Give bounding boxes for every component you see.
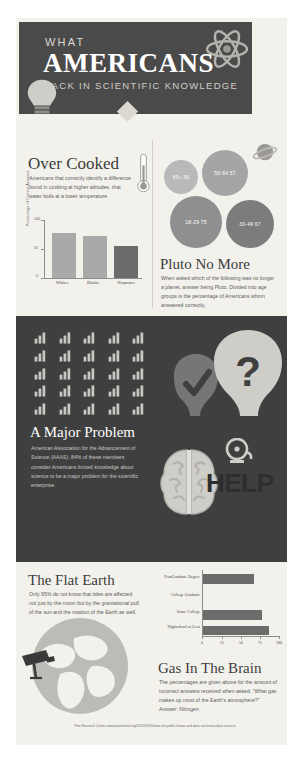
bubble-18-29: 18-29 75	[170, 196, 222, 248]
bar-chart-pictogram-icon	[79, 401, 101, 416]
thermometer-icon	[136, 152, 151, 194]
y-tick-label-100: 100	[34, 217, 40, 221]
bar-chart-pictogram-icon	[128, 330, 150, 345]
x-tick-label-25: 25	[220, 640, 224, 645]
bar-chart-pictogram-icon	[55, 330, 77, 345]
over-cooked-title: Over Cooked	[28, 154, 119, 174]
gas-brain-bar-chart: PostGraduate Degree College Graduate Som…	[158, 568, 282, 654]
chart-bars	[50, 220, 142, 278]
bar-chart-pictogram-icon	[104, 401, 126, 416]
y-tick-100	[41, 220, 45, 221]
heads-illustration: ?	[156, 324, 284, 434]
gas-brain-body: The percentages are given above for the …	[159, 678, 277, 714]
x-label-whites: Whites	[48, 280, 76, 285]
hbar-postgraduate	[203, 574, 254, 584]
pluto-bubble-chart: 65+ 36 50-64 57 18-29 75 30-49 67	[160, 148, 282, 252]
bar-chart-pictogram-icon	[79, 348, 101, 363]
x-tick-100	[279, 636, 280, 639]
alarm-bell-icon	[224, 438, 254, 466]
bar-chart-pictogram-icon	[128, 366, 150, 381]
x-tick-75	[260, 636, 261, 639]
bar-chart-pictogram-icon	[104, 348, 126, 363]
x-label-blacks: Blacks	[79, 280, 107, 285]
over-cooked-bar-chart: Percentage of Correct Answers 100 50 0 W…	[30, 218, 146, 296]
bar-chart-pictogram-icon	[128, 401, 150, 416]
chart-y-axis-label: Percentage of Correct Answers	[26, 170, 30, 226]
page-title: AMERICANS	[43, 48, 214, 79]
bar-chart-pictogram-icon	[79, 366, 101, 381]
flat-earth-title: The Flat Earth	[28, 572, 115, 589]
bar-chart-pictogram-icon	[79, 383, 101, 398]
pluto-body: When asked which of the following was no…	[161, 274, 276, 310]
x-tick-25	[222, 636, 223, 639]
bar-chart-pictogram-icon	[128, 348, 150, 363]
y-tick-50	[41, 249, 45, 250]
head-question-icon: ?	[214, 330, 282, 416]
bar-whites	[52, 233, 76, 278]
brain-help-illustration: HELP	[156, 438, 284, 534]
y-tick-label-50: 50	[34, 246, 38, 250]
bar-chart-pictogram-icon	[30, 401, 52, 416]
bar-chart-pictogram-icon	[104, 366, 126, 381]
flat-earth-body: Only 95% do not know that tides are affe…	[29, 590, 139, 617]
major-problem-title: A Major Problem	[30, 424, 135, 441]
chart-x-axis	[44, 278, 142, 279]
svg-text:?: ?	[235, 348, 261, 395]
bar-chart-pictogram-icon	[30, 366, 52, 381]
bar-chart-pictogram-icon	[79, 330, 101, 345]
major-problem-section: A Major Problem American Association for…	[16, 316, 287, 562]
bar-blacks	[83, 236, 107, 278]
bar-chart-pictogram-icon	[30, 348, 52, 363]
hcat-college-grad: College Graduate	[142, 592, 200, 597]
bar-chart-pictogram-icon	[128, 383, 150, 398]
bar-chart-pictogram-icon	[30, 330, 52, 345]
bar-hispanics	[114, 246, 138, 278]
hbar-some-college	[203, 610, 262, 620]
infographic-page: WHAT AMERICANS LACK IN SCIENTIFIC KNOWLE…	[0, 0, 303, 763]
bubble-50-64: 50-64 57	[202, 150, 248, 196]
major-problem-body: American Association for the Advancement…	[31, 444, 143, 491]
x-tick-label-100: 100	[276, 640, 282, 645]
gas-brain-title: Gas In The Brain	[158, 660, 261, 677]
y-tick-0	[41, 278, 45, 279]
pluto-title: Pluto No More	[160, 256, 250, 273]
bar-chart-pictogram-icon	[104, 383, 126, 398]
bar-chart-pictogram-icon	[55, 383, 77, 398]
bar-chart-pictogram-icon	[55, 366, 77, 381]
help-text: HELP	[206, 468, 273, 499]
x-tick-label-75: 75	[258, 640, 262, 645]
y-tick-label-0: 0	[36, 274, 38, 278]
over-cooked-body: Americans that correctly identify a diff…	[29, 174, 132, 201]
pictogram-grid	[30, 330, 150, 416]
hbar-highschool	[203, 626, 269, 635]
x-tick-label-0: 0	[201, 640, 203, 645]
header-subtitle: LACK IN SCIENTIFIC KNOWLEDGE	[45, 80, 238, 91]
chart-caption: Ethnic Groups	[30, 68, 122, 72]
bubble-30-49: 30-49 67	[226, 200, 274, 248]
x-tick-label-50: 50	[239, 640, 243, 645]
header-eyebrow: WHAT	[45, 36, 85, 48]
bar-chart-pictogram-icon	[55, 401, 77, 416]
bar-chart-pictogram-icon	[55, 348, 77, 363]
footer-source[interactable]: Pew Research Center www.pewinternet.org/…	[60, 724, 250, 729]
x-tick-0	[202, 636, 203, 639]
x-tick-50	[241, 636, 242, 639]
vertical-divider	[152, 140, 153, 308]
hcat-some-college: Some College	[142, 609, 200, 614]
bar-chart-pictogram-icon	[30, 383, 52, 398]
bubble-65-plus: 65+ 36	[164, 160, 198, 194]
telescope-icon	[20, 648, 62, 680]
x-label-hispanics: Hispanics	[110, 280, 142, 285]
head-checkmark-icon	[174, 354, 218, 416]
bar-chart-pictogram-icon	[104, 330, 126, 345]
hcat-postgraduate: PostGraduate Degree	[142, 574, 200, 579]
hcat-highschool: Highschool or Less	[142, 624, 200, 629]
